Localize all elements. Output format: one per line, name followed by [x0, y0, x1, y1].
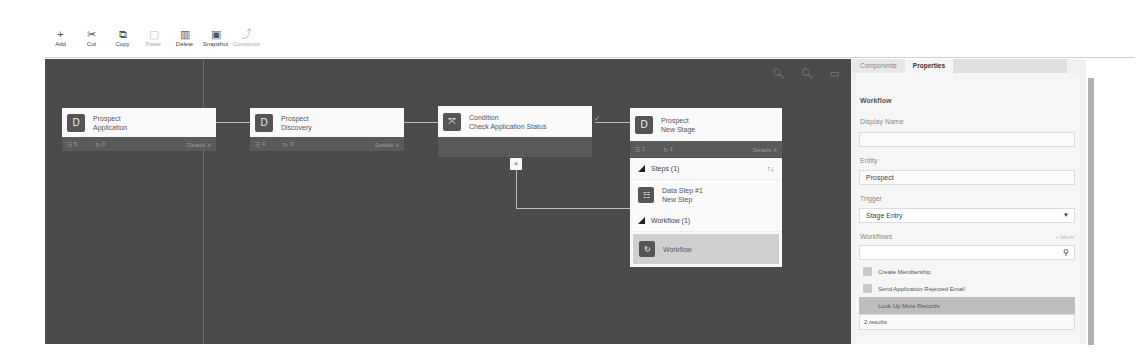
- workflow-option[interactable]: Create Membership: [859, 263, 1075, 280]
- workflow-count: 0: [102, 141, 105, 147]
- delete-button[interactable]: ▥Delete: [169, 27, 200, 53]
- connector-icon: ⤴: [241, 27, 252, 41]
- steps-count: 4: [262, 141, 265, 147]
- stage-icon: D: [67, 114, 85, 132]
- toolbar: +Add ✂Cut ⧉Copy ▢Paste ▥Delete ▣Snapshot…: [45, 27, 262, 53]
- zoom-out-icon[interactable]: 🔍︎: [772, 68, 785, 79]
- data-step-item[interactable]: ☷Data Step #1New Step: [630, 180, 782, 210]
- more-link[interactable]: + More: [1055, 234, 1074, 240]
- sort-icon[interactable]: ↑↓: [767, 165, 774, 172]
- node-title: Prospect: [281, 114, 312, 123]
- section-title: Workflow: [860, 97, 891, 104]
- steps-icon: ☰: [67, 141, 74, 148]
- trigger-value: Stage Entry: [866, 212, 903, 219]
- collapse-triangle-icon: [638, 217, 645, 224]
- trash-icon: ▥: [180, 27, 190, 41]
- copy-icon: ⧉: [119, 27, 127, 41]
- node-subtitle: Discovery: [281, 123, 312, 132]
- data-step-icon: ☷: [638, 187, 654, 203]
- copy-button[interactable]: ⧉Copy: [107, 27, 138, 53]
- details-toggle[interactable]: Details ∧: [753, 146, 777, 153]
- node-subtitle: Application: [93, 123, 127, 132]
- condition-node[interactable]: ⤧ConditionCheck Application Status: [438, 106, 592, 157]
- zoom-in-icon[interactable]: 🔍︎: [801, 68, 814, 79]
- steps-count: 5: [74, 141, 77, 147]
- connector-button[interactable]: ⤴Connector: [231, 27, 262, 53]
- workflow-option-label: Create Membership: [878, 269, 931, 275]
- workflows-label: Workflows: [860, 233, 892, 240]
- connector-line: [403, 122, 439, 123]
- snapshot-button[interactable]: ▣Snapshot: [200, 27, 231, 53]
- entity-label: Entity: [860, 157, 878, 164]
- search-icon: ⚲: [1063, 248, 1069, 257]
- scissors-icon: ✂: [87, 27, 96, 41]
- stage-details-panel: Steps (1)↑↓ ☷Data Step #1New Step Workfl…: [630, 158, 782, 267]
- toolbar-divider: [45, 57, 1135, 58]
- workflow-item[interactable]: ↻Workflow: [633, 234, 779, 264]
- stage-icon: D: [635, 116, 653, 134]
- connector-line: [516, 170, 517, 208]
- workflow-item-label: Workflow: [663, 245, 692, 254]
- condition-true-mark: ✓: [594, 114, 601, 123]
- panel-scrollbar[interactable]: [1088, 78, 1094, 345]
- step-subtitle: New Step: [662, 195, 703, 204]
- results-count: 2 results: [859, 314, 1075, 330]
- entity-input[interactable]: Prospect: [859, 170, 1075, 185]
- steps-section-header[interactable]: Steps (1)↑↓: [630, 158, 782, 180]
- properties-panel: Workflow Display Name Entity Prospect Tr…: [856, 73, 1080, 344]
- plus-icon: +: [57, 27, 63, 41]
- display-name-input[interactable]: [859, 132, 1075, 147]
- snapshot-label: Snapshot: [203, 41, 228, 47]
- workflow-option-icon: [863, 284, 872, 293]
- node-title: Condition: [469, 113, 546, 122]
- workflow-icon: ↻: [663, 146, 670, 153]
- guide-line: [203, 59, 204, 344]
- workflow-option-label: Look Up More Records: [878, 303, 940, 309]
- stage-node-prospect-discovery[interactable]: DProspectDiscovery ☰ 4↻ 0Details ∨: [250, 108, 404, 151]
- connector-line: [216, 122, 251, 123]
- workflow-icon: ↻: [639, 241, 655, 257]
- display-name-label: Display Name: [860, 118, 904, 125]
- steps-icon: ☰: [635, 146, 642, 153]
- workflow-option-label: Send Application Rejected Email: [878, 286, 965, 292]
- collapse-triangle-icon: [638, 165, 645, 172]
- stage-icon: D: [255, 114, 273, 132]
- workflow-option[interactable]: Look Up More Records: [859, 297, 1075, 314]
- add-label: Add: [55, 41, 66, 47]
- workflow-icon: ↻: [95, 141, 102, 148]
- node-title: Prospect: [661, 116, 695, 125]
- workflow-header: Workflow (1): [651, 217, 690, 224]
- workflow-icon: ↻: [283, 141, 290, 148]
- workflow-search-input[interactable]: ⚲: [859, 245, 1075, 260]
- paste-button[interactable]: ▢Paste: [138, 27, 169, 53]
- workflow-count: 0: [290, 141, 293, 147]
- workflow-options-list: Create Membership Send Application Rejec…: [859, 263, 1075, 330]
- paste-label: Paste: [146, 41, 161, 47]
- tab-properties[interactable]: Properties: [905, 59, 953, 73]
- copy-label: Copy: [115, 41, 129, 47]
- add-button[interactable]: +Add: [45, 27, 76, 53]
- condition-icon: ⤧: [443, 113, 461, 131]
- condition-footer: [438, 137, 592, 157]
- snapshot-icon: ▣: [211, 27, 221, 41]
- paste-icon: ▢: [149, 27, 159, 41]
- details-toggle[interactable]: Details ∨: [375, 141, 399, 148]
- stage-node-prospect-new-stage[interactable]: DProspectNew Stage ☰ 1↻ 1Details ∧: [630, 108, 782, 157]
- fit-to-screen-icon[interactable]: ▭: [830, 68, 839, 79]
- stage-node-prospect-application[interactable]: DProspectApplication ☰ 5↻ 0Details ∨: [62, 108, 216, 151]
- cut-button[interactable]: ✂Cut: [76, 27, 107, 53]
- steps-icon: ☰: [255, 141, 262, 148]
- details-toggle[interactable]: Details ∨: [187, 141, 211, 148]
- connector-label: Connector: [233, 41, 261, 47]
- node-subtitle: New Stage: [661, 125, 695, 134]
- workflow-option[interactable]: Send Application Rejected Email: [859, 280, 1075, 297]
- condition-false-button[interactable]: ×: [510, 158, 522, 170]
- workflow-count: 1: [670, 146, 673, 152]
- workflow-section-header[interactable]: Workflow (1): [630, 210, 782, 232]
- workflow-option-icon: [863, 267, 872, 276]
- step-title: Data Step #1: [662, 186, 703, 195]
- node-subtitle: Check Application Status: [469, 122, 546, 131]
- trigger-select[interactable]: Stage Entry▼: [859, 208, 1075, 223]
- tab-components[interactable]: Components: [852, 59, 905, 73]
- node-title: Prospect: [93, 114, 127, 123]
